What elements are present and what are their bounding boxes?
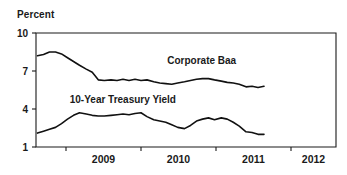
series-annotations: Corporate Baa10-Year Treasury Yield <box>70 55 237 105</box>
x-tick-label: 2011 <box>242 153 265 165</box>
y-tick-label: 1 <box>22 142 28 153</box>
series-line <box>38 113 265 135</box>
x-tick-label: 2009 <box>92 153 116 165</box>
x-axis-ticks: 2009201020112012 <box>66 147 325 165</box>
x-tick-label: 2012 <box>302 153 326 165</box>
y-tick-label: 10 <box>17 28 29 39</box>
series-annotation-label: 10-Year Treasury Yield <box>70 94 176 105</box>
y-tick-label: 7 <box>22 66 28 77</box>
y-axis-ticks: 10741 <box>17 28 36 153</box>
chart-container: Percent 10741 2009201020112012 Corporate… <box>0 0 347 175</box>
series-annotation-label: Corporate Baa <box>167 55 236 66</box>
chart-plot-area: 10741 2009201020112012 Corporate Baa10-Y… <box>0 0 347 175</box>
plot-frame <box>36 33 336 147</box>
x-tick-label: 2010 <box>167 153 191 165</box>
y-tick-label: 4 <box>22 104 28 115</box>
